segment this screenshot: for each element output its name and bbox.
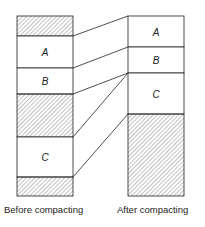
connector-c-top [73, 73, 128, 137]
after-column: A B C [128, 16, 184, 196]
before-column: A B C [17, 16, 73, 196]
label-b-before: B [42, 76, 49, 87]
free-block-bottom [17, 177, 73, 196]
label-c-after: C [152, 89, 160, 100]
label-a-before: A [41, 47, 49, 58]
connector-b-bottom [73, 73, 128, 94]
compaction-diagram: A B C A B C [0, 0, 205, 227]
free-block-top [17, 16, 73, 36]
label-b-after: B [153, 55, 160, 66]
mapping-lines [73, 16, 128, 177]
connector-a-top [73, 16, 128, 36]
after-caption: After compacting [117, 204, 188, 215]
connector-a-bottom [73, 47, 128, 68]
label-a-after: A [152, 27, 160, 38]
free-block-middle [17, 94, 73, 137]
free-block-after [128, 114, 184, 196]
connector-c-bottom [73, 114, 128, 177]
label-c-before: C [41, 152, 49, 163]
before-caption: Before compacting [4, 204, 83, 215]
